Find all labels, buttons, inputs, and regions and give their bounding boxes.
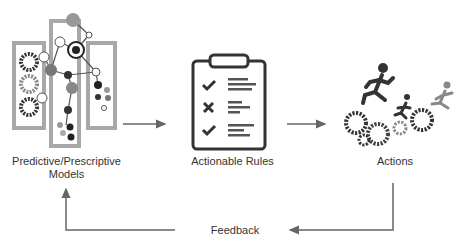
actions-label: Actions (365, 155, 425, 168)
feedback-label: Feedback (195, 224, 275, 237)
models-label-line1: Predictive/Prescriptive (0, 155, 133, 168)
network-graph-icon (14, 13, 115, 146)
clipboard-checklist-icon (193, 55, 265, 149)
diagram-canvas (0, 0, 463, 244)
arrow-feedback-to-models (66, 189, 175, 230)
arrow-actions-feedback (290, 183, 393, 230)
rules-label: Actionable Rules (180, 155, 285, 168)
models-label: Predictive/Prescriptive Models (0, 155, 133, 181)
models-label-line2: Models (0, 168, 133, 181)
runners-gears-icon (346, 63, 452, 145)
